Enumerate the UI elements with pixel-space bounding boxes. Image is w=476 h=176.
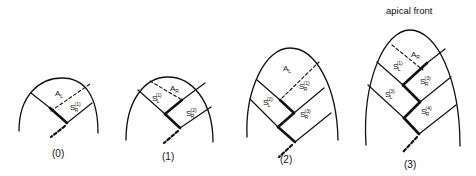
- panel-2: [247, 48, 338, 157]
- svg-text:SR(4): SR(4): [421, 105, 432, 117]
- svg-text:SR(1): SR(1): [299, 80, 310, 92]
- svg-text:SL(3): SL(3): [385, 88, 395, 100]
- panel-2-caption: (2): [280, 154, 292, 165]
- panel-1-caption: (1): [162, 151, 174, 162]
- panel-3-labels: AR SL(1) SR(3) SL(3) SR(4) (3): [385, 50, 432, 170]
- apex-outline: [19, 78, 98, 133]
- panel-0-caption: (0): [52, 148, 64, 159]
- apex-outline: [247, 48, 338, 140]
- svg-text:AR: AR: [170, 84, 179, 94]
- apical-growth-diagram: AL SR(1) (0) AR SL(1) SR(2) (1) AL SR(1)…: [0, 0, 476, 176]
- svg-text:AR: AR: [411, 50, 420, 60]
- svg-text:SR(1): SR(1): [70, 101, 81, 113]
- svg-text:SR(3): SR(3): [420, 75, 431, 87]
- panel-3-caption: (3): [404, 159, 416, 170]
- svg-text:AL: AL: [283, 64, 291, 74]
- apical-front-title: apical front: [386, 5, 433, 16]
- svg-text:SL(1): SL(1): [393, 60, 403, 72]
- panel-3: [366, 30, 460, 152]
- panel-0: [19, 78, 98, 137]
- svg-text:SL(1): SL(1): [152, 92, 162, 104]
- svg-text:SR(3): SR(3): [300, 108, 311, 120]
- svg-text:SL(2): SL(2): [263, 96, 273, 108]
- svg-text:AL: AL: [55, 89, 63, 99]
